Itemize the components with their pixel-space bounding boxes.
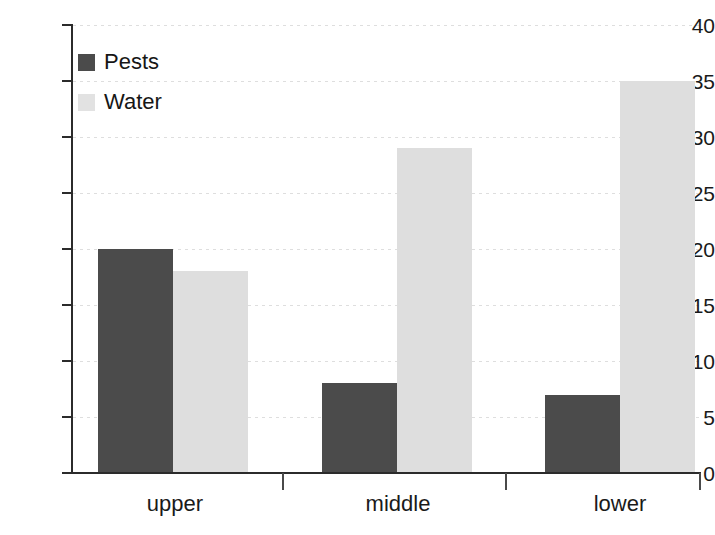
chart-legend: Pests Water [78,42,162,122]
legend-swatch-water-icon [78,94,95,111]
category-separator-1 [282,473,284,490]
legend-item-water: Water [78,82,162,122]
category-label-lower: lower [594,491,647,517]
bar-lower-pests [545,395,620,473]
plot-area [72,25,700,473]
bar-upper-water [173,271,248,473]
bar-chart: 40 35 30 25 20 15 10 5 0 upper middle lo… [0,0,715,535]
category-separator-2 [505,473,507,490]
category-label-middle: middle [366,491,431,517]
bar-middle-water [397,148,472,473]
legend-item-pests: Pests [78,42,162,82]
legend-label-pests: Pests [104,51,159,73]
bar-middle-pests [322,383,397,473]
x-axis-end-tick [699,473,701,490]
bar-upper-pests [98,249,173,473]
legend-swatch-pests-icon [78,54,95,71]
y-axis-line [71,24,73,474]
x-axis-line [71,472,701,474]
legend-label-water: Water [104,91,162,113]
category-label-upper: upper [147,491,203,517]
bar-lower-water [620,81,695,473]
